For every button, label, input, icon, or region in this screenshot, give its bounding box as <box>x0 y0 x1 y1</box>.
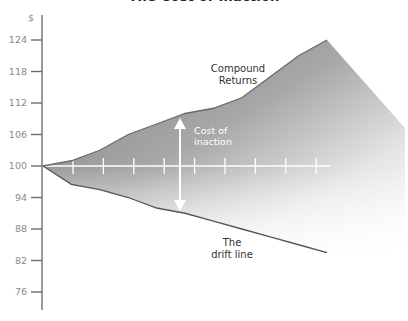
drift-line-line1: The <box>200 237 264 249</box>
y-tick-label: 124 <box>3 35 27 45</box>
drift-line-line2: drift line <box>200 249 264 261</box>
y-tick-label: 118 <box>3 67 27 77</box>
y-tick-label: 112 <box>3 98 27 108</box>
y-tick-label: 106 <box>3 130 27 140</box>
y-tick-label: 100 <box>3 161 27 171</box>
y-tick-label: 88 <box>3 224 27 234</box>
y-tick-label: 94 <box>3 193 27 203</box>
compound-returns-label: Compound Returns <box>206 63 270 87</box>
y-axis <box>31 15 42 310</box>
y-tick-label: 76 <box>3 287 27 297</box>
cost-of-inaction-label: Cost of inaction <box>194 125 254 147</box>
chart-canvas <box>0 0 408 321</box>
compound-returns-line1: Compound <box>206 63 270 75</box>
drift-line-label: The drift line <box>200 237 264 261</box>
compound-returns-line2: Returns <box>206 75 270 87</box>
cost-of-inaction-line1: Cost of <box>194 125 254 136</box>
y-unit-label: $ <box>10 13 34 23</box>
cost-of-inaction-line2: inaction <box>194 136 254 147</box>
y-tick-label: 82 <box>3 256 27 266</box>
